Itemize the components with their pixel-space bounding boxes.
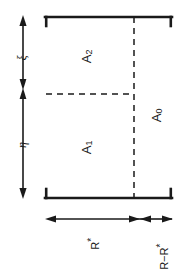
eta-arrowhead-inner <box>20 88 27 99</box>
domain-bracket-top <box>45 17 172 26</box>
dimension-line-group <box>45 215 173 222</box>
rstar-arrowhead-right <box>129 215 140 222</box>
rstar-arrowhead-left <box>45 215 56 222</box>
region-label-a0: A0 <box>150 108 165 122</box>
region-label-a2: A2 <box>80 49 95 63</box>
coordinate-axis <box>19 15 26 199</box>
rminusrstar-arrowhead-left <box>140 215 151 222</box>
dimension-label-r-minus-r-star: R−R* <box>156 244 170 270</box>
domain-bracket-bottom <box>45 189 172 198</box>
axis-label-eta: η <box>16 142 28 148</box>
figure-container: A2 A1 A0 ξ η R* R−R* <box>0 0 180 276</box>
axis-label-xi: ξ <box>16 55 28 60</box>
region-label-a1: A1 <box>80 140 95 154</box>
rminusrstar-arrowhead-right <box>162 215 173 222</box>
dimension-label-r-star: R* <box>87 238 101 250</box>
diagram-svg <box>0 0 180 276</box>
eta-arrowhead-down <box>19 188 26 199</box>
xi-arrowhead-up <box>19 15 26 26</box>
